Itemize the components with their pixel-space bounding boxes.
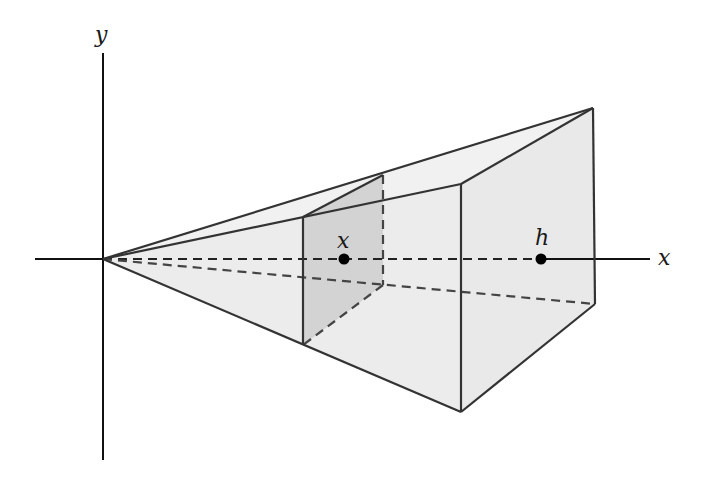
x-axis-label: x	[658, 245, 671, 270]
y-axis-label: y	[94, 22, 108, 47]
slice-point-label: x	[337, 228, 350, 253]
point-x	[339, 254, 350, 265]
base-point-label: h	[535, 225, 549, 250]
point-h	[536, 254, 547, 265]
pyramid-diagram: y x x h	[0, 0, 711, 477]
